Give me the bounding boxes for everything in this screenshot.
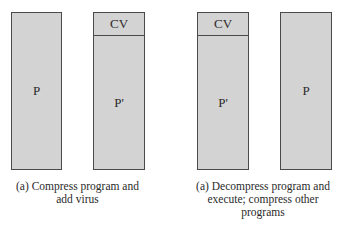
panel-2-caption-line-3: programs (183, 206, 337, 219)
program-p-label: P (12, 13, 61, 169)
compressed-infected-program-box: CV P' (93, 12, 145, 170)
panel-2-caption-line-2: execute; compress other (183, 193, 337, 206)
program-p-box: P (11, 12, 62, 170)
compressed-infected-program-box: CV P' (197, 12, 249, 170)
panel-1-caption: (a) Compress program and add virus (0, 180, 155, 206)
panel-1-caption-line-1: (a) Compress program and (0, 180, 155, 193)
compressed-program-p-prime-label: P' (198, 36, 248, 169)
panel-2-caption-line-1: (a) Decompress program and (183, 180, 337, 193)
panel-1-caption-line-2: add virus (0, 193, 155, 206)
cv-segment-label: CV (94, 13, 144, 36)
program-p-box: P (280, 12, 332, 170)
cv-segment-label: CV (198, 13, 248, 36)
compressed-program-p-prime-label: P' (94, 36, 144, 169)
panel-2-caption: (a) Decompress program and execute; comp… (183, 180, 337, 219)
program-p-label: P (281, 13, 331, 169)
